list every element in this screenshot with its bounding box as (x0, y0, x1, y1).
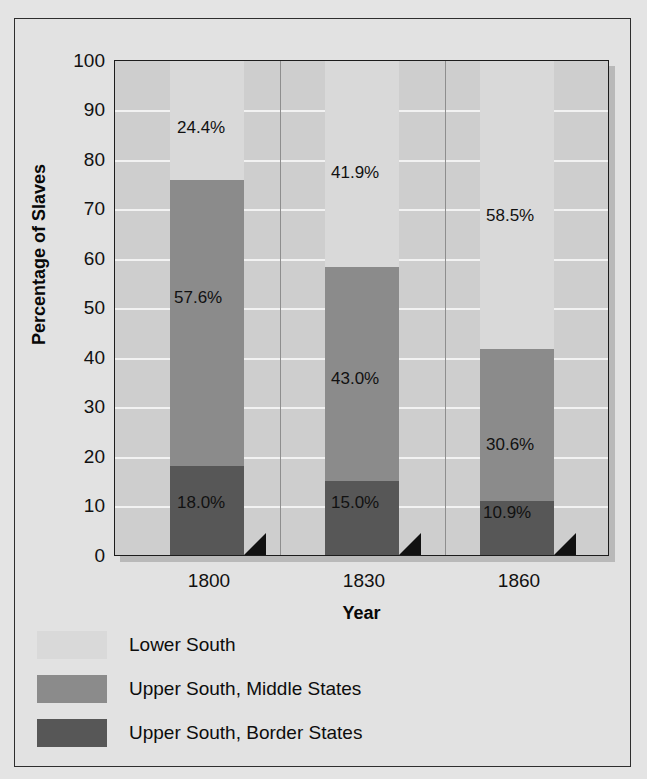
data-label-1800-lower-south: 24.4% (177, 118, 225, 138)
category-separator-1 (280, 61, 281, 555)
y-axis-title: Percentage of Slaves (29, 125, 50, 385)
legend-label-upper-south-border-states: Upper South, Border States (129, 721, 362, 745)
data-label-1860-upper-middle: 30.6% (486, 435, 534, 455)
legend-swatch-upper-south-middle-states (37, 675, 107, 703)
x-tick-1860: 1860 (459, 571, 579, 590)
data-label-1860-lower-south: 58.5% (486, 206, 534, 226)
plot-wrapper: 24.4% 57.6% 18.0% 41.9% 43.0% 15.0% 58.5… (114, 60, 609, 556)
y-tick-60: 60 (59, 249, 105, 268)
x-tick-1800: 1800 (149, 571, 269, 590)
plot-area: 24.4% 57.6% 18.0% 41.9% 43.0% 15.0% 58.5… (114, 60, 609, 556)
bar-1860[interactable] (480, 60, 554, 555)
legend-swatch-upper-south-border-states (37, 719, 107, 747)
y-tick-0: 0 (59, 546, 105, 565)
y-tick-10: 10 (59, 496, 105, 515)
bar-1830-segment-upper-south-border[interactable] (325, 481, 399, 555)
bar-1860-segment-upper-south-middle[interactable] (480, 349, 554, 501)
data-label-1830-lower-south: 41.9% (331, 163, 379, 183)
legend-label-lower-south: Lower South (129, 633, 236, 657)
data-label-1800-upper-middle: 57.6% (174, 288, 222, 308)
data-label-1800-upper-border: 18.0% (177, 493, 225, 513)
y-tick-100: 100 (59, 51, 105, 70)
x-tick-1830: 1830 (304, 571, 424, 590)
y-tick-40: 40 (59, 348, 105, 367)
bar-1800-segment-upper-south-middle[interactable] (170, 180, 244, 465)
y-tick-80: 80 (59, 150, 105, 169)
category-separator-2 (445, 61, 446, 555)
y-tick-90: 90 (59, 100, 105, 119)
data-label-1830-upper-border: 15.0% (331, 493, 379, 513)
data-label-1860-upper-border: 10.9% (483, 503, 531, 523)
y-tick-20: 20 (59, 447, 105, 466)
y-tick-70: 70 (59, 199, 105, 218)
bar-1830[interactable] (325, 60, 399, 555)
bar-1860-segment-lower-south[interactable] (480, 60, 554, 349)
legend-label-upper-south-middle-states: Upper South, Middle States (129, 677, 361, 701)
legend-swatch-lower-south (37, 631, 107, 659)
x-axis-title: Year (114, 603, 609, 624)
chart-figure: 100 90 80 70 60 50 40 30 20 10 0 Percent… (0, 0, 647, 779)
data-label-1830-upper-middle: 43.0% (331, 369, 379, 389)
y-tick-30: 30 (59, 397, 105, 416)
figure-frame: 100 90 80 70 60 50 40 30 20 10 0 Percent… (14, 18, 631, 767)
y-tick-50: 50 (59, 298, 105, 317)
